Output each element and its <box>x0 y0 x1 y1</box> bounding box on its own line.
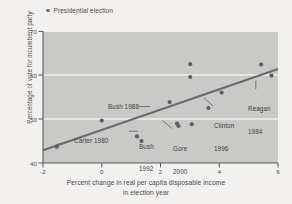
data-point <box>188 62 192 66</box>
data-point <box>206 106 210 110</box>
annotation-clinton-1996-line2: 1996 <box>214 145 234 153</box>
data-point-carter-1980 <box>55 145 59 149</box>
annotation-gore-2000: Gore 2000 <box>173 130 187 191</box>
annotation-bush-1988: Bush 1988 <box>108 103 139 111</box>
annotation-reagan-1984: Reagan 1984 <box>248 90 271 151</box>
x-axis-ticks <box>43 163 278 168</box>
annotation-reagan-1984-line1: Reagan <box>248 105 271 113</box>
y-tick-label-70: 70 <box>21 28 37 35</box>
data-point-reagan-1984 <box>269 74 273 78</box>
data-point-clinton-1996 <box>220 91 224 95</box>
data-point <box>188 75 192 79</box>
data-point-bush-1988 <box>168 100 172 104</box>
annotation-bush-1992: Bush 1992 <box>139 128 154 189</box>
x-tick-label-neg2: -2 <box>35 168 51 175</box>
data-point <box>100 119 104 123</box>
y-tick-label-50: 50 <box>21 116 37 123</box>
annotation-clinton-1996: Clinton 1996 <box>214 107 234 168</box>
data-point <box>190 122 194 126</box>
x-tick-label-2: 2 <box>153 168 169 175</box>
data-point-gore-2000 <box>176 124 180 128</box>
data-point <box>259 63 263 67</box>
annotation-clinton-1996-line1: Clinton <box>214 122 234 130</box>
y-tick-label-60: 60 <box>21 72 37 79</box>
x-tick-label-4: 4 <box>211 168 227 175</box>
annotation-gore-2000-line1: Gore <box>173 145 187 153</box>
annotation-gore-2000-line2: 2000 <box>173 168 187 176</box>
chart-legend: Presidential election <box>46 7 113 14</box>
y-tick-label-40: 40 <box>21 160 37 167</box>
legend-label: Presidential election <box>54 7 113 14</box>
dot-marker-icon <box>46 9 50 13</box>
x-tick-label-0: 0 <box>94 168 110 175</box>
x-tick-label-6: 6 <box>270 168 286 175</box>
annotation-carter-1980: Carter 1980 <box>74 137 108 145</box>
annotation-bush-1992-line2: 1992 <box>139 165 154 173</box>
x-axis-label-line2: in election year <box>0 188 292 198</box>
annotation-bush-1992-line1: Bush <box>139 143 154 151</box>
annotation-reagan-1984-line2: 1984 <box>248 128 271 136</box>
y-axis-ticks <box>39 31 44 163</box>
